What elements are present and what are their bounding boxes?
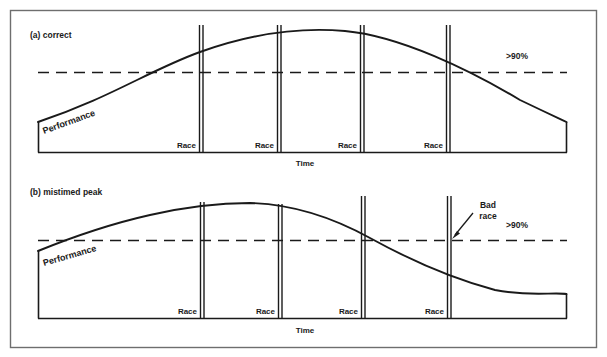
panel-a-race-label-4: Race xyxy=(424,141,444,150)
bad-race-annotation-line2: race xyxy=(479,211,497,221)
panel-a-race-label-2: Race xyxy=(255,141,275,150)
panel-a-threshold-label: >90% xyxy=(506,51,528,61)
panel-b-label: (b) mistimed peak xyxy=(30,187,103,197)
performance-peaking-diagram: (a) correct >90% Performance Race xyxy=(0,0,607,357)
panel-b-race-label-1: Race xyxy=(178,307,198,316)
panel-a-race-label-3: Race xyxy=(338,141,358,150)
panel-b-race-label-2: Race xyxy=(256,307,276,316)
bad-race-annotation-line1: Bad xyxy=(480,200,496,210)
panel-a-x-axis-label: Time xyxy=(296,159,315,168)
figure-root: (a) correct >90% Performance Race xyxy=(0,0,607,357)
panel-a-race-label-1: Race xyxy=(177,141,197,150)
panel-a-label: (a) correct xyxy=(30,30,72,40)
panel-b-race-label-3: Race xyxy=(339,307,359,316)
figure-outer-frame xyxy=(11,11,597,348)
panel-b-threshold-label: >90% xyxy=(506,220,528,230)
panel-b-race-label-4: Race xyxy=(425,307,445,316)
panel-b-x-axis-label: Time xyxy=(296,326,315,335)
